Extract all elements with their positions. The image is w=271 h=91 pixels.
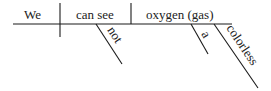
subject-word: We — [24, 7, 41, 22]
modifier-word-a: a — [198, 28, 214, 41]
modifier-word-colorless: colorless — [224, 21, 262, 68]
modifier-line-a — [191, 24, 208, 54]
object-word: oxygen (gas) — [146, 7, 214, 22]
predicate-word: can see — [76, 7, 114, 22]
sentence-diagram: We can see oxygen (gas) not a colorless — [0, 0, 271, 91]
